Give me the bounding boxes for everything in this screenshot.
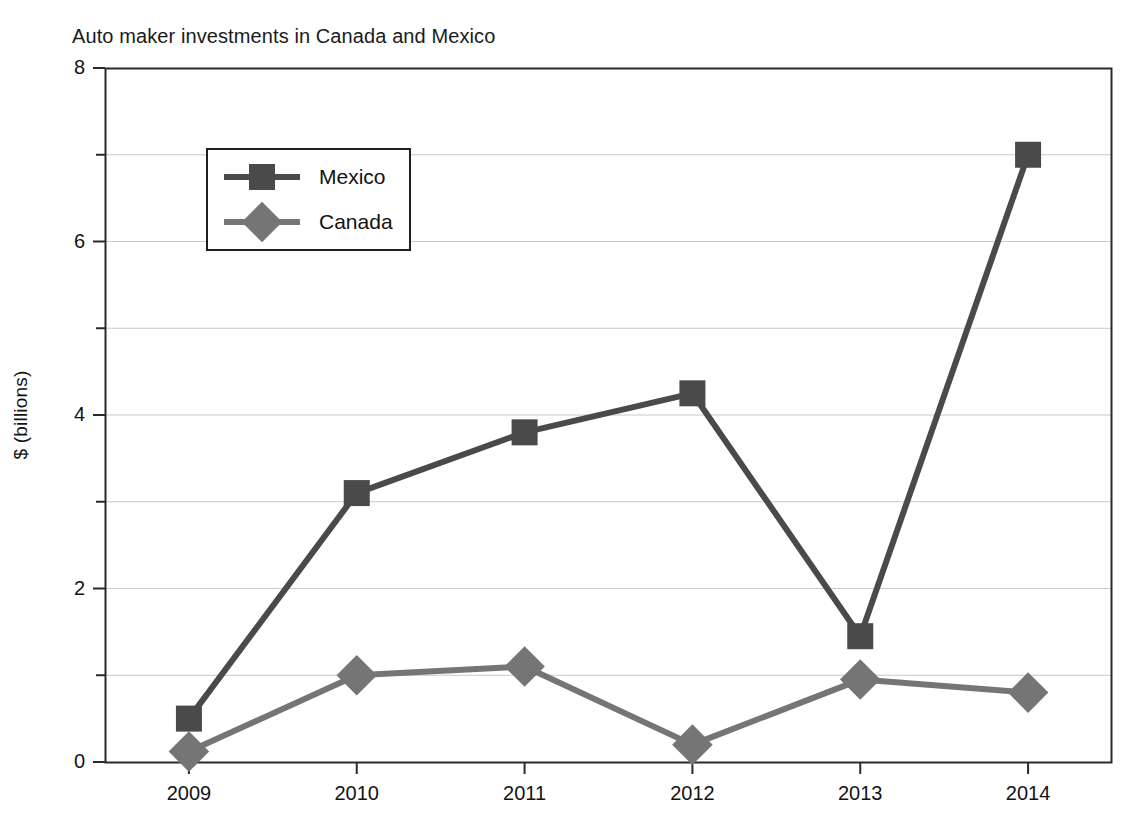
- y-axis-ticks: 02468: [74, 56, 105, 772]
- x-tick-label: 2014: [1006, 782, 1051, 804]
- x-tick-label: 2011: [503, 782, 546, 804]
- data-point-marker-square: [176, 706, 202, 732]
- data-point-marker-square: [679, 380, 705, 406]
- series-canada: [169, 646, 1049, 772]
- legend-label: Mexico: [319, 165, 386, 188]
- data-point-marker-diamond: [169, 731, 210, 772]
- data-point-marker-square: [512, 419, 538, 445]
- legend-label: Canada: [319, 210, 393, 233]
- data-point-marker-square: [249, 164, 275, 190]
- x-tick-label: 2013: [838, 782, 883, 804]
- data-point-marker-diamond: [672, 724, 713, 765]
- y-tick-label: 8: [74, 56, 85, 78]
- y-tick-label: 6: [74, 230, 85, 252]
- chart-legend[interactable]: MexicoCanada: [207, 149, 410, 250]
- y-tick-label: 4: [74, 403, 85, 425]
- x-tick-label: 2010: [335, 782, 380, 804]
- x-tick-label: 2009: [167, 782, 212, 804]
- data-point-marker-square: [847, 623, 873, 649]
- chart-figure: Auto maker investments in Canada and Mex…: [0, 0, 1147, 818]
- x-tick-label: 2012: [670, 782, 715, 804]
- y-tick-label: 0: [74, 750, 85, 772]
- data-point-marker-diamond: [1008, 672, 1049, 713]
- data-point-marker-diamond: [336, 655, 377, 696]
- plot-area: 02468 200920102011201220132014 MexicoCan…: [0, 0, 1147, 818]
- data-point-marker-diamond: [840, 659, 881, 700]
- series-line: [189, 667, 1028, 752]
- data-point-marker-diamond: [504, 646, 545, 687]
- y-tick-label: 2: [74, 577, 85, 599]
- data-point-marker-square: [344, 480, 370, 506]
- data-point-marker-square: [1015, 142, 1041, 168]
- x-axis-ticks: 200920102011201220132014: [167, 762, 1051, 804]
